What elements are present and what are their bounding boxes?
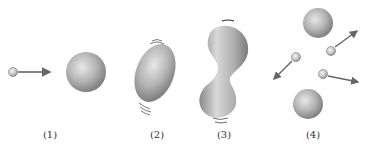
- stage-4: [274, 8, 358, 119]
- stage-1: [9, 52, 107, 92]
- neutron-particle: [327, 47, 336, 56]
- deformed-nucleus: [127, 38, 183, 107]
- vibration-mark-icon: [213, 118, 228, 123]
- stage-label-2: (2): [150, 129, 164, 140]
- fragment-sphere-top: [303, 8, 333, 38]
- neutron-particle: [9, 68, 18, 77]
- neutron-particle: [319, 70, 328, 79]
- neutron-arrow-icon: [328, 76, 358, 82]
- neutron-particle: [292, 53, 301, 62]
- fission-diagram: [0, 0, 376, 147]
- elongated-nucleus: [199, 26, 248, 118]
- vibration-mark-icon: [150, 40, 164, 45]
- stage-label-4: (4): [306, 129, 320, 140]
- neutron-arrow-icon: [274, 61, 292, 79]
- neutron-arrow-icon: [335, 31, 357, 47]
- fragment-sphere-bottom: [293, 89, 323, 119]
- vibration-mark-icon: [139, 103, 151, 115]
- stage-label-1: (1): [43, 129, 57, 140]
- stage-label-3: (3): [217, 129, 231, 140]
- stage-3: [199, 20, 248, 123]
- vibration-mark-icon: [222, 20, 234, 21]
- stage-2: [127, 38, 183, 115]
- nucleus-sphere: [66, 52, 106, 92]
